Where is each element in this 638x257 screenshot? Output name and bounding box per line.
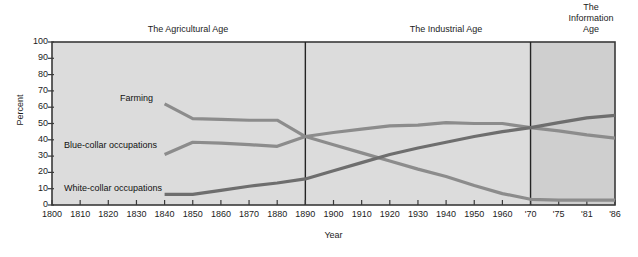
x-tick-label: '86 <box>595 209 635 219</box>
era-label-industrial: The Industrial Age <box>324 24 568 35</box>
y-tick-label: 30 <box>22 151 48 160</box>
y-tick-label: 20 <box>22 167 48 176</box>
x-axis-label: Year <box>52 230 615 240</box>
y-tick-label: 90 <box>22 53 48 62</box>
y-tick-label: 60 <box>22 102 48 111</box>
y-tick-label: 0 <box>22 200 48 209</box>
y-tick-label: 10 <box>22 184 48 193</box>
y-tick-label: 80 <box>22 70 48 79</box>
era-band-information <box>531 42 615 205</box>
chart-figure: The Agricultural Age The Industrial Age … <box>0 0 638 257</box>
era-band-agricultural <box>52 42 305 205</box>
y-tick-label: 100 <box>22 37 48 46</box>
series-annotation: Farming <box>120 93 153 103</box>
y-tick-label: 70 <box>22 86 48 95</box>
y-tick-label: 40 <box>22 135 48 144</box>
series-annotation: Blue-collar occupations <box>64 140 157 150</box>
y-tick-label: 50 <box>22 119 48 128</box>
era-label-agricultural: The Agricultural Age <box>52 24 324 35</box>
series-annotation: White-collar occupations <box>64 183 162 193</box>
era-label-information: The Information Age <box>556 2 626 35</box>
